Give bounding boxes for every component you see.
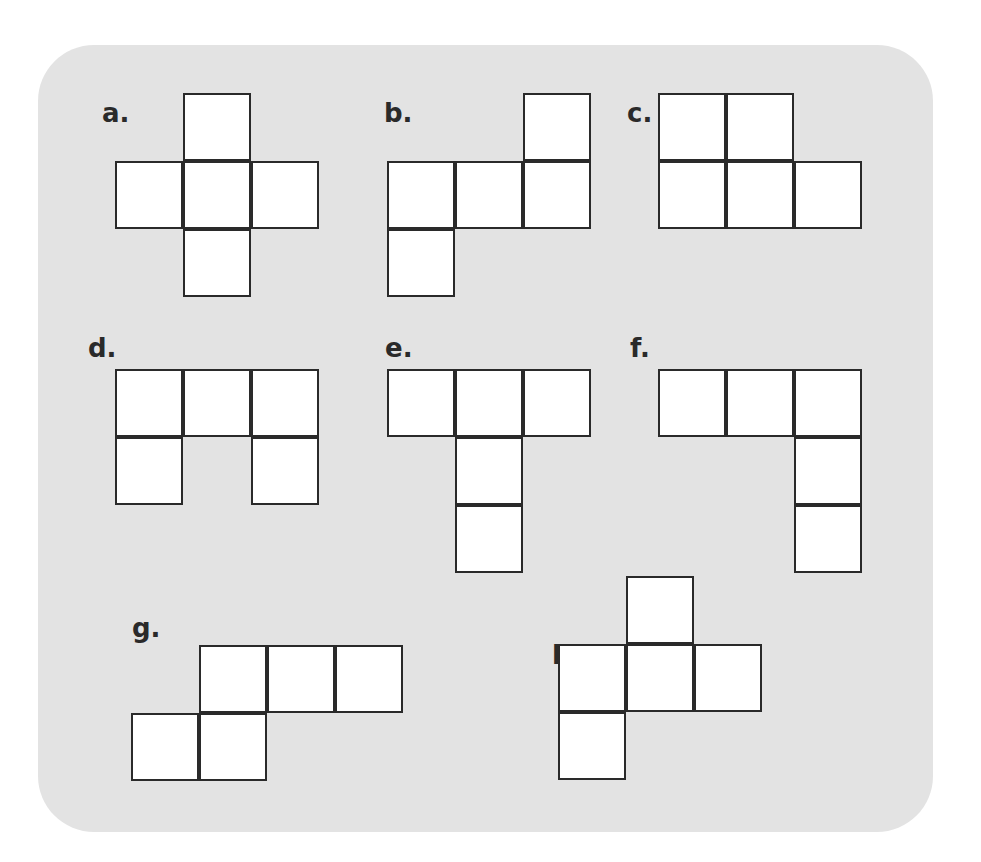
net-square xyxy=(251,161,319,229)
net-square xyxy=(387,161,455,229)
net-square xyxy=(794,161,862,229)
net-square xyxy=(131,713,199,781)
net-square xyxy=(455,369,523,437)
net-square xyxy=(794,437,862,505)
net-label-e: e. xyxy=(385,335,413,361)
net-square xyxy=(455,505,523,573)
net-label-a: a. xyxy=(102,100,129,126)
net-square xyxy=(726,161,794,229)
net-square xyxy=(794,505,862,573)
net-square xyxy=(694,644,762,712)
net-square xyxy=(115,437,183,505)
net-square xyxy=(115,161,183,229)
net-square xyxy=(251,437,319,505)
net-square xyxy=(523,161,591,229)
net-square xyxy=(183,161,251,229)
net-square xyxy=(387,229,455,297)
net-square xyxy=(658,93,726,161)
net-square xyxy=(523,369,591,437)
net-square xyxy=(626,576,694,644)
net-square xyxy=(523,93,591,161)
net-square xyxy=(455,437,523,505)
net-label-f: f. xyxy=(630,335,650,361)
net-square xyxy=(658,161,726,229)
net-square xyxy=(335,645,403,713)
net-square xyxy=(658,369,726,437)
net-square xyxy=(455,161,523,229)
net-square xyxy=(115,369,183,437)
net-square xyxy=(794,369,862,437)
net-label-d: d. xyxy=(88,335,117,361)
net-square xyxy=(558,712,626,780)
net-square xyxy=(626,644,694,712)
net-label-b: b. xyxy=(384,100,413,126)
net-square xyxy=(183,369,251,437)
net-square xyxy=(199,713,267,781)
net-label-c: c. xyxy=(627,100,652,126)
net-square xyxy=(251,369,319,437)
net-square xyxy=(387,369,455,437)
net-square xyxy=(558,644,626,712)
net-square xyxy=(726,369,794,437)
net-label-g: g. xyxy=(132,615,161,641)
net-square xyxy=(267,645,335,713)
net-square xyxy=(726,93,794,161)
net-square xyxy=(199,645,267,713)
net-square xyxy=(183,93,251,161)
net-square xyxy=(183,229,251,297)
